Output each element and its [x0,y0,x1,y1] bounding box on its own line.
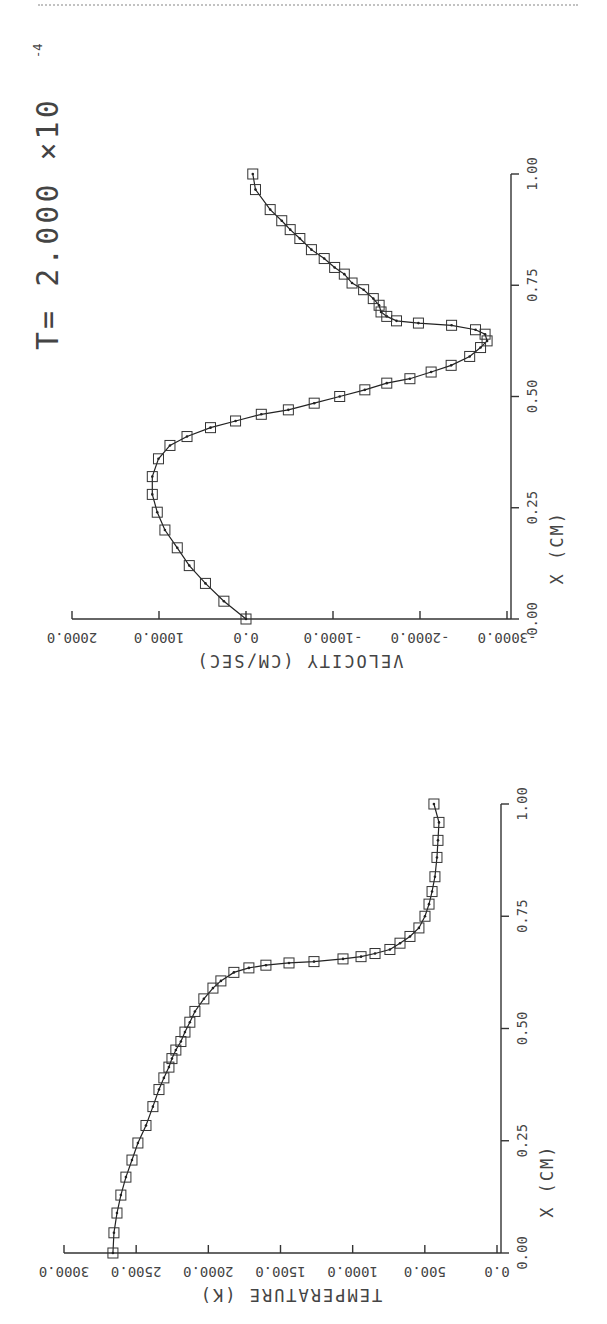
data-point-dot [468,355,471,358]
data-point-dot [389,948,392,951]
x-tick-label: 0.25 [514,1124,530,1158]
value-tick-label: -1000.0 [303,630,362,646]
data-point-dot [176,547,179,550]
data-point-dot [484,333,487,336]
data-point-dot [437,839,440,842]
data-point-dot [112,1252,115,1255]
data-point-dot [362,288,365,291]
value-axis-title: VELOCITY (CM/SEC) [196,651,404,671]
data-point-dot [418,927,421,930]
data-point-dot [431,890,434,893]
data-point-dot [163,1077,166,1080]
data-point-dot [450,324,453,327]
data-point-dot [395,320,398,323]
data-point-dot [265,964,268,967]
figure-page: T= 2.000 ×10 -4 -3000.0-2000.0-1000.00.0… [0,0,607,1324]
data-point-dot [338,395,341,398]
data-point-dot [378,304,381,307]
value-tick-label: 1000.0 [134,630,185,646]
value-tick-label: 500.0 [404,1264,446,1280]
data-point-dot [428,903,431,906]
data-point-dot [137,1142,140,1145]
data-point-dot [424,915,427,918]
data-point-dot [434,875,437,878]
time-label: T= 2.000 ×10 -4 [30,44,65,350]
x-tick-label: 0.75 [524,268,540,302]
data-point-dot [131,1159,134,1162]
x-tick-label: 0.75 [514,899,530,933]
data-point-dot [409,377,412,380]
x-tick-label: 1.00 [514,787,530,821]
data-point-dot [486,340,489,343]
data-point-dot [479,346,482,349]
data-point-dot [184,1031,187,1034]
data-point-dot [254,188,257,191]
data-point-dot [186,435,189,438]
data-point-dot [310,248,313,251]
data-point-dot [125,1176,128,1179]
data-point-dot [169,444,172,447]
data-point-dot [343,273,346,276]
data-point-dot [260,413,263,416]
data-point-dot [313,402,316,405]
data-point-dot [360,955,363,958]
data-point-dot [164,529,167,532]
data-point-dot [180,1040,183,1043]
value-tick-label: -2000.0 [390,630,449,646]
x-tick-label: 0.00 [514,1236,530,1270]
data-point-dot [399,942,402,945]
value-tick-label: 0.0 [233,630,258,646]
data-point-dot [342,958,345,961]
data-point-dot [120,1194,123,1197]
data-point-dot [152,1105,155,1108]
data-point-dot [438,821,441,824]
data-point-dot [433,803,436,806]
data-point-dot [280,219,283,222]
data-point-dot [474,328,477,331]
data-point-dot [248,967,251,970]
data-point-dot [245,618,248,621]
data-point-dot [430,371,433,374]
value-tick-label: 0.0 [484,1264,509,1280]
figure-canvas: T= 2.000 ×10 -4 -3000.0-2000.0-1000.00.0… [0,0,607,1324]
velocity-plot: -3000.0-2000.0-1000.00.01000.02000.0VELO… [47,157,567,671]
data-point-dot [194,1010,197,1013]
series-line [113,804,439,1253]
data-point-dot [251,173,254,176]
data-point-dot [156,511,159,514]
data-point-dot [116,1212,119,1215]
data-point-dot [313,960,316,963]
value-tick-label: 2000.0 [47,630,98,646]
data-point-dot [372,297,375,300]
data-point-dot [299,237,302,240]
data-point-dot [175,1049,178,1052]
data-point-dot [188,564,191,567]
data-point-dot [151,493,154,496]
value-tick-label: 1500.0 [255,1264,306,1280]
data-point-dot [212,987,215,990]
data-point-dot [204,582,207,585]
data-point-dot [145,1124,148,1127]
value-tick-label: 2000.0 [183,1264,234,1280]
data-point-dot [209,426,212,429]
data-point-dot [385,382,388,385]
data-point-dot [113,1231,116,1234]
x-tick-label: 1.00 [524,157,540,191]
data-point-dot [374,952,377,955]
data-point-dot [158,1088,161,1091]
data-point-dot [289,228,292,231]
x-tick-label: 0.50 [514,1012,530,1046]
data-point-dot [364,389,367,392]
data-point-dot [171,1057,174,1060]
data-point-dot [234,420,237,423]
data-point-dot [203,998,206,1001]
data-point-dot [151,475,154,478]
time-label-exponent: -4 [31,44,45,58]
data-point-dot [220,980,223,983]
value-tick-label: 1000.0 [327,1264,378,1280]
clipped-caption-text [38,0,578,6]
data-point-dot [233,971,236,974]
data-point-dot [323,257,326,260]
data-point-dot [351,282,354,285]
data-point-dot [223,600,226,603]
